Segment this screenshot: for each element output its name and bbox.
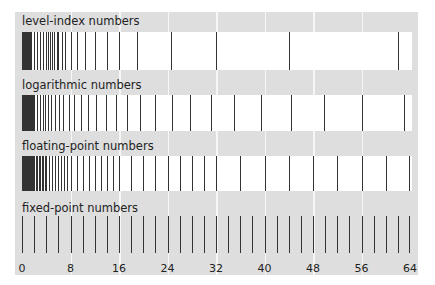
tick-mark: [277, 216, 278, 253]
tick-mark: [83, 216, 84, 253]
tick-mark: [107, 32, 108, 70]
tick-mark: [143, 216, 144, 253]
x-tick-label: 56: [355, 262, 369, 275]
tick-mark: [71, 216, 72, 253]
tick-mark: [77, 32, 78, 70]
tick-mark: [116, 95, 117, 131]
tick-mark: [22, 32, 23, 70]
tick-mark: [325, 216, 326, 253]
tick-mark: [313, 156, 314, 191]
tick-mark: [95, 32, 96, 70]
tick-mark: [83, 156, 84, 191]
tick-mark: [43, 95, 44, 131]
tick-mark: [143, 156, 144, 191]
tick-mark: [106, 95, 107, 131]
tick-mark: [216, 156, 217, 191]
tick-mark: [216, 216, 217, 253]
tick-mark: [240, 216, 241, 253]
tick-mark: [107, 216, 108, 253]
tick-mark: [324, 95, 325, 131]
tick-mark: [58, 32, 59, 70]
tick-mark: [349, 216, 350, 253]
tick-mark: [171, 32, 172, 70]
tick-mark: [65, 32, 66, 70]
tick-mark: [113, 156, 114, 191]
tick-mark: [155, 216, 156, 253]
tick-mark: [265, 156, 266, 191]
tick-mark: [34, 32, 35, 70]
tick-mark: [204, 156, 205, 191]
tick-mark: [386, 216, 387, 253]
tick-mark: [48, 95, 49, 131]
tick-mark: [192, 156, 193, 191]
tick-mark: [240, 156, 241, 191]
x-tick-label: 24: [161, 262, 175, 275]
tick-mark: [291, 95, 292, 131]
tick-mark: [362, 95, 363, 131]
tick-mark: [362, 216, 363, 253]
tick-mark: [204, 216, 205, 253]
tick-mark: [40, 95, 41, 131]
tick-mark: [137, 32, 138, 70]
tick-mark: [265, 216, 266, 253]
tick-mark: [216, 32, 217, 70]
tick-mark: [192, 216, 193, 253]
tick-mark: [88, 95, 89, 131]
strip-floating-point: [22, 156, 412, 191]
tick-mark: [155, 95, 156, 131]
tick-mark: [95, 216, 96, 253]
tick-mark: [289, 216, 290, 253]
tick-mark: [89, 156, 90, 191]
tick-mark: [168, 216, 169, 253]
tick-mark: [54, 32, 55, 70]
row-label-level-index: level-index numbers: [22, 14, 140, 28]
tick-mark: [119, 216, 120, 253]
tick-mark: [59, 95, 60, 131]
tick-mark: [34, 216, 35, 253]
tick-mark: [22, 95, 23, 131]
tick-mark: [211, 95, 212, 131]
tick-mark: [398, 32, 399, 70]
tick-mark: [46, 216, 47, 253]
tick-mark: [55, 95, 56, 131]
tick-mark: [71, 156, 72, 191]
tick-mark: [289, 32, 290, 70]
strip-fixed-point: [22, 216, 412, 253]
tick-mark: [64, 156, 65, 191]
tick-mark: [31, 95, 32, 131]
tick-mark: [85, 32, 86, 70]
tick-mark: [362, 156, 363, 191]
tick-mark: [43, 32, 44, 70]
tick-mark: [31, 32, 32, 70]
tick-mark: [37, 95, 38, 131]
tick-mark: [95, 156, 96, 191]
tick-mark: [28, 95, 29, 131]
x-tick-label: 8: [67, 262, 74, 275]
tick-mark: [52, 156, 53, 191]
strip-level-index: [22, 32, 412, 70]
row-label-floating-point: floating-point numbers: [22, 139, 154, 153]
tick-mark: [234, 95, 235, 131]
tick-mark: [168, 156, 169, 191]
tick-mark: [28, 32, 29, 70]
tick-mark: [140, 95, 141, 131]
tick-mark: [131, 156, 132, 191]
tick-mark: [131, 216, 132, 253]
tick-mark: [96, 95, 97, 131]
tick-mark: [409, 216, 410, 253]
row-label-fixed-point: fixed-point numbers: [22, 201, 138, 215]
tick-mark: [46, 156, 47, 191]
tick-mark: [101, 156, 102, 191]
tick-mark: [25, 32, 26, 70]
tick-mark: [58, 216, 59, 253]
tick-mark: [63, 95, 64, 131]
tick-mark: [313, 216, 314, 253]
tick-mark: [34, 95, 35, 131]
tick-mark: [127, 95, 128, 131]
tick-mark: [74, 95, 75, 131]
tick-mark: [22, 216, 23, 253]
tick-mark: [40, 32, 41, 70]
tick-mark: [67, 156, 68, 191]
tick-mark: [55, 156, 56, 191]
row-label-logarithmic: logarithmic numbers: [22, 78, 142, 92]
